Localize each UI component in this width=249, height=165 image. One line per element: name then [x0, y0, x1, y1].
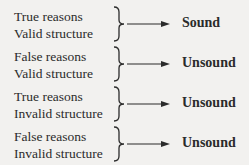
- verdict-label: Unsound: [182, 134, 236, 152]
- right-brace-icon: [112, 46, 126, 82]
- premise-reasons: False reasons: [14, 48, 86, 65]
- premise-structure: Invalid structure: [14, 105, 103, 122]
- arrow-right-icon: [127, 139, 171, 149]
- premise-structure: Invalid structure: [14, 145, 103, 162]
- verdict-label: Unsound: [182, 94, 236, 112]
- arrow-right-icon: [127, 59, 171, 69]
- row-false-invalid: False reasons Invalid structure Unsound: [0, 124, 249, 164]
- premise-structure: Valid structure: [14, 65, 93, 82]
- arrow-right-icon: [127, 99, 171, 109]
- premise-structure: Valid structure: [14, 25, 93, 42]
- verdict-label: Unsound: [182, 54, 236, 72]
- verdict-label: Sound: [182, 14, 220, 32]
- arrow-right-icon: [127, 19, 171, 29]
- premise-reasons: True reasons: [14, 8, 83, 25]
- row-true-valid: True reasons Valid structure Sound: [0, 4, 249, 44]
- premise-reasons: False reasons: [14, 128, 86, 145]
- right-brace-icon: [112, 6, 126, 42]
- row-true-invalid: True reasons Invalid structure Unsound: [0, 84, 249, 124]
- right-brace-icon: [112, 126, 126, 162]
- row-false-valid: False reasons Valid structure Unsound: [0, 44, 249, 84]
- premise-reasons: True reasons: [14, 88, 83, 105]
- right-brace-icon: [112, 86, 126, 122]
